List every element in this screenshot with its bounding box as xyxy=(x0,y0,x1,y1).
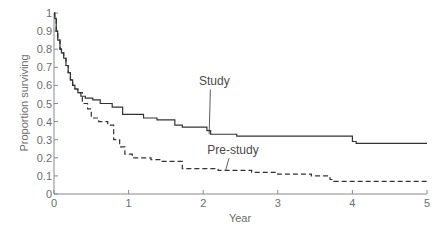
annotation-pointer xyxy=(209,89,210,134)
annotation-pointer xyxy=(226,158,229,170)
x-tick-label: 1 xyxy=(126,197,132,209)
y-tick-label: 0.9 xyxy=(37,25,52,37)
x-axis-title: Year xyxy=(229,212,252,224)
x-tick-label: 0 xyxy=(51,197,57,209)
tick-labels: 00.10.20.30.40.50.60.70.80.91012345 xyxy=(37,7,430,209)
y-axis-title: Proportion surviving xyxy=(18,54,30,151)
series-study xyxy=(54,13,427,143)
y-tick-label: 0.4 xyxy=(37,116,52,128)
annotation-label: Study xyxy=(199,74,230,88)
x-tick-label: 3 xyxy=(275,197,281,209)
survival-chart: 00.10.20.30.40.50.60.70.80.91012345 Stud… xyxy=(0,0,440,229)
y-tick-label: 0.1 xyxy=(37,170,52,182)
y-tick-label: 1 xyxy=(46,7,52,19)
y-tick-label: 0.3 xyxy=(37,134,52,146)
y-tick-label: 0.7 xyxy=(37,61,52,73)
annotations: StudyPre-study xyxy=(199,74,259,170)
y-tick-label: 0.6 xyxy=(37,79,52,91)
y-tick-label: 0.2 xyxy=(37,152,52,164)
y-tick-label: 0.5 xyxy=(37,98,52,110)
annotation-label: Pre-study xyxy=(207,143,258,157)
x-tick-label: 4 xyxy=(349,197,355,209)
x-tick-label: 5 xyxy=(424,197,430,209)
x-tick-label: 2 xyxy=(200,197,206,209)
y-tick-label: 0.8 xyxy=(37,43,52,55)
